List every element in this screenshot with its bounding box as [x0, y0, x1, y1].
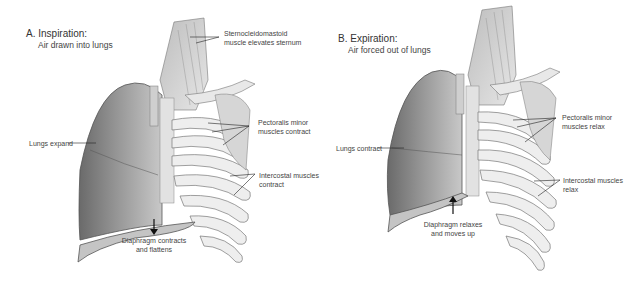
label-diaphragm: Diaphragm relaxes and moves up — [420, 221, 486, 238]
label-pectoralis-minor: Pectoralis minor muscles relax — [562, 114, 612, 131]
panel-inspiration: A. Inspiration: Air drawn into lungs Ste… — [0, 0, 320, 298]
panel-title: B. Expiration: — [338, 33, 397, 44]
label-intercostal: Intercostal muscles relax — [563, 177, 623, 194]
panel-subtitle: Air forced out of lungs — [348, 45, 431, 55]
label-lungs: Lungs contract — [336, 145, 382, 154]
label-intercostal: Intercostal muscles contract — [259, 172, 319, 189]
label-pectoralis-minor: Pectoralis minor muscles contract — [258, 119, 311, 136]
panel-expiration: B. Expiration: Air forced out of lungs P… — [320, 0, 640, 298]
panel-subtitle: Air drawn into lungs — [38, 40, 113, 50]
label-diaphragm: Diaphragm contracts and flattens — [120, 237, 188, 254]
label-sternocleidomastoid: Sternocleidomastoid muscle elevates ster… — [224, 30, 301, 47]
panel-title: A. Inspiration: — [26, 28, 87, 39]
label-lungs: Lungs expand — [29, 140, 73, 149]
